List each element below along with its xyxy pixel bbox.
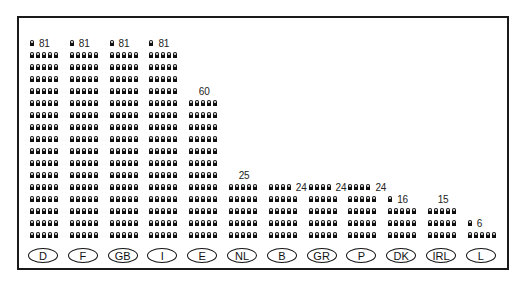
person-icon (213, 112, 217, 118)
person-icon (30, 64, 34, 70)
person-icon (82, 184, 86, 190)
person-icon (173, 208, 177, 214)
country-label-irl: IRL (426, 248, 456, 263)
person-icon (195, 196, 199, 202)
person-icon (293, 208, 297, 214)
person-icon (110, 148, 114, 154)
person-icon (173, 148, 177, 154)
person-icon (155, 88, 159, 94)
person-icon (116, 160, 120, 166)
person-icon (155, 208, 159, 214)
person-icon (48, 88, 52, 94)
icon-row (110, 220, 140, 232)
person-icon (195, 232, 199, 238)
person-icon (468, 232, 472, 238)
person-icon (287, 220, 291, 226)
bar-i: 81 (149, 40, 183, 244)
person-icon (116, 112, 120, 118)
person-icon (269, 220, 273, 226)
person-icon (94, 100, 98, 106)
person-icon (76, 208, 80, 214)
icon-row (149, 232, 179, 244)
icon-row (229, 232, 259, 244)
person-icon (167, 160, 171, 166)
person-icon (116, 52, 120, 58)
icon-row (149, 64, 179, 76)
person-icon (128, 160, 132, 166)
person-icon (195, 172, 199, 178)
person-icon (348, 196, 352, 202)
person-icon (348, 220, 352, 226)
person-icon (134, 112, 138, 118)
person-icon (155, 196, 159, 202)
person-icon (247, 220, 251, 226)
person-icon (36, 52, 40, 58)
icon-row (149, 160, 179, 172)
person-icon (149, 232, 153, 238)
person-icon (128, 76, 132, 82)
person-icon (452, 232, 456, 238)
person-icon (167, 232, 171, 238)
person-icon (94, 172, 98, 178)
person-icon (161, 160, 165, 166)
person-icon (76, 184, 80, 190)
person-icon (275, 196, 279, 202)
person-icon (388, 196, 392, 202)
person-icon (122, 160, 126, 166)
person-icon (201, 184, 205, 190)
person-icon (161, 208, 165, 214)
person-icon (213, 172, 217, 178)
person-icon (309, 220, 313, 226)
person-icon (110, 232, 114, 238)
person-icon (94, 220, 98, 226)
person-icon (207, 136, 211, 142)
country-label-nl: NL (227, 248, 257, 263)
person-icon (161, 148, 165, 154)
person-icon (110, 76, 114, 82)
person-icon (281, 184, 285, 190)
person-icon (189, 172, 193, 178)
person-icon (54, 52, 58, 58)
person-icon (327, 220, 331, 226)
person-icon (134, 184, 138, 190)
icon-row (149, 100, 179, 112)
person-icon (76, 220, 80, 226)
person-icon (201, 208, 205, 214)
person-icon (42, 112, 46, 118)
person-icon (207, 196, 211, 202)
person-icon (400, 208, 404, 214)
person-icon (207, 112, 211, 118)
person-icon (54, 220, 58, 226)
person-icon (354, 232, 358, 238)
person-icon (36, 100, 40, 106)
person-icon (30, 40, 34, 46)
person-icon (161, 196, 165, 202)
person-icon (134, 76, 138, 82)
person-icon (167, 148, 171, 154)
person-icon (128, 124, 132, 130)
value-label: 81 (158, 40, 169, 48)
person-icon (155, 172, 159, 178)
person-icon (207, 208, 211, 214)
person-icon (36, 64, 40, 70)
person-icon (122, 232, 126, 238)
person-icon (36, 124, 40, 130)
icon-row (348, 232, 378, 244)
person-icon (30, 124, 34, 130)
icon-row (149, 112, 179, 124)
person-icon (48, 208, 52, 214)
person-icon (400, 220, 404, 226)
person-icon (287, 232, 291, 238)
person-icon (173, 100, 177, 106)
icon-row (309, 232, 339, 244)
person-icon (366, 232, 370, 238)
icon-row (30, 172, 60, 184)
person-icon (315, 232, 319, 238)
icon-row (70, 88, 100, 100)
person-icon (201, 172, 205, 178)
icon-row (149, 184, 179, 196)
person-icon (30, 160, 34, 166)
person-icon (54, 172, 58, 178)
person-icon (122, 52, 126, 58)
person-icon (213, 136, 217, 142)
